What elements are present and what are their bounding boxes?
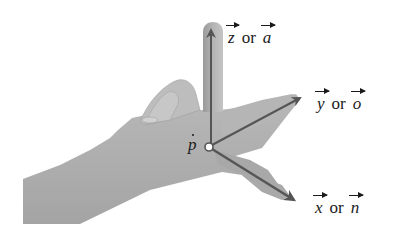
dot-accent — [192, 134, 194, 136]
a-vector-symbol: a — [263, 24, 272, 48]
x-axis-arrow — [212, 149, 294, 200]
y-vector-symbol: y — [317, 90, 325, 114]
origin-label-text: p — [188, 135, 197, 154]
index-finger — [203, 22, 223, 112]
n-vector-symbol: n — [351, 194, 360, 218]
or-connector: or — [242, 28, 256, 47]
y-axis-label: yoro — [317, 90, 361, 114]
o-vector-symbol: o — [353, 90, 362, 114]
or-connector: or — [330, 198, 344, 217]
z-axis-label: zora — [228, 24, 271, 48]
origin-label: p — [188, 135, 197, 155]
origin-point-icon — [205, 143, 213, 151]
x-vector-symbol: x — [315, 194, 323, 218]
x-axis-label: xorn — [315, 194, 359, 218]
z-vector-symbol: z — [228, 24, 235, 48]
or-connector: or — [332, 94, 346, 113]
right-hand-rule-figure: p zora yoro xorn — [0, 0, 404, 237]
